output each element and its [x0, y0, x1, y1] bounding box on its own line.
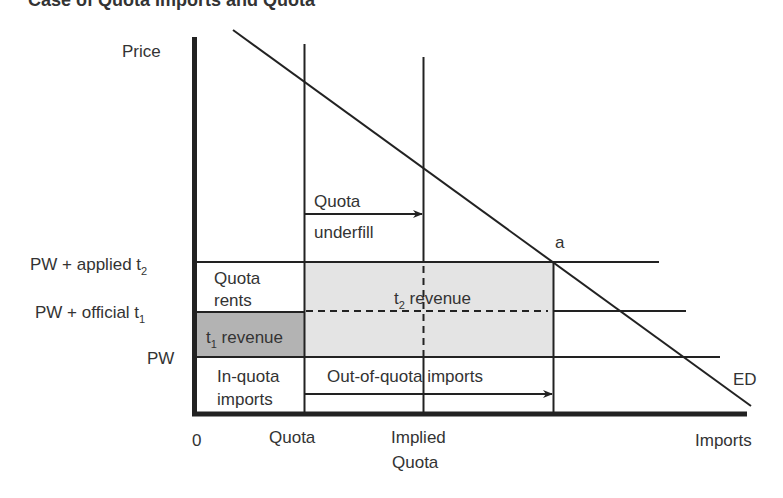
pw-label: PW [147, 349, 174, 368]
diagram-title: Case of Quota Imports and Quota [28, 0, 316, 10]
implied-quota-label-2: Quota [392, 453, 439, 472]
x-axis-label: Imports [695, 431, 752, 450]
quota-underfill-label-1: Quota [314, 192, 361, 211]
ed-label: ED [733, 370, 757, 389]
point-a-label: a [555, 233, 565, 252]
t2-revenue-region [305, 262, 553, 357]
t1-revenue-label: t1 revenue [206, 328, 283, 350]
quota-underfill-label-2: underfill [314, 223, 374, 242]
official-t1-label: PW + official t1 [35, 303, 145, 325]
origin-label: 0 [192, 431, 201, 450]
out-of-quota-label: Out-of-quota imports [327, 367, 483, 386]
implied-quota-label-1: Implied [391, 428, 446, 447]
quota-rents-label-2: rents [214, 291, 252, 310]
in-quota-label-2: imports [217, 390, 273, 409]
quota-tick-label: Quota [269, 428, 316, 447]
y-axis-label: Price [122, 42, 161, 61]
quota-diagram: Case of Quota Imports and Quota Price Im… [0, 0, 783, 498]
quota-rents-label-1: Quota [214, 269, 261, 288]
t2-revenue-label: t2 revenue [394, 289, 471, 311]
applied-t2-label: PW + applied t2 [30, 255, 147, 277]
in-quota-label-1: In-quota [217, 367, 280, 386]
